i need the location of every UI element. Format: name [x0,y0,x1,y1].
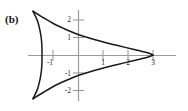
x-tick-label--1: -1 [47,58,53,67]
curve-upper-branch [33,11,153,55]
x-tick-label-3: 3 [151,58,155,67]
figure-panel: (b) -1 1 2 3 2 1 -1 -2 [0,0,188,111]
y-tick-label-1: 1 [67,33,71,42]
plot-svg: -1 1 2 3 2 1 -1 -2 [0,0,188,111]
y-tick-label-2: 2 [67,15,71,24]
y-tick-label--1: -1 [65,69,71,78]
y-tick-label--2: -2 [65,86,71,95]
x-tick-label-1: 1 [101,58,105,67]
